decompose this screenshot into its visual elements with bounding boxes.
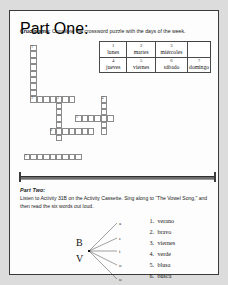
word-list-word: busca <box>158 273 172 279</box>
vowel-label-i: i <box>119 249 120 254</box>
word-list-word: verano <box>158 218 175 224</box>
worksheet-paper: Part One: Crucigrama: Complete the cross… <box>10 11 218 274</box>
list-item: 3.viernes <box>146 238 175 249</box>
list-item: 4.verde <box>146 249 175 260</box>
part-two-label: Part Two: <box>20 187 45 194</box>
word-list-number: 3. <box>146 238 154 249</box>
vowel-label-e: e <box>119 236 121 241</box>
crossword-cell[interactable] <box>75 154 81 160</box>
vowel-label-o: o <box>119 263 122 268</box>
list-item: 6.busca <box>146 271 175 282</box>
crossword-cell[interactable] <box>69 96 75 102</box>
ray-to-e <box>89 238 117 251</box>
word-list-number: 2. <box>146 227 154 238</box>
section-divider <box>19 172 216 182</box>
divider-bar <box>21 176 214 180</box>
word-list-word: blusa <box>158 262 171 268</box>
ray-to-o <box>89 251 117 265</box>
vowel-word-list: 1.verano 2.bravo 3.viernes 4.verde 5.blu <box>146 216 175 283</box>
word-list-number: 4. <box>146 249 154 260</box>
crossword-clue-number: 6 <box>51 129 53 132</box>
ray-to-a <box>89 223 117 251</box>
vowel-label-a: a <box>119 221 121 226</box>
worksheet-content: Part One: Crucigrama: Complete the cross… <box>18 17 211 269</box>
crossword-clue-number: 2 <box>31 97 33 100</box>
crossword-clue-number: 4 <box>102 97 104 100</box>
list-item: 2.bravo <box>146 227 175 238</box>
screenshot-canvas: Part One: Crucigrama: Complete the cross… <box>0 0 228 285</box>
list-item: 1.verano <box>146 216 175 227</box>
word-list-number: 6. <box>146 271 154 282</box>
ray-to-u <box>89 251 117 279</box>
part-two-instruction-line-1: Listen to Activity 31B on the Activity C… <box>20 195 181 201</box>
consonant-v-label: V <box>76 254 83 264</box>
vowel-diagram: B V a e i o u <box>64 213 140 285</box>
vowel-diagram-rays <box>64 213 140 285</box>
list-item: 5.blusa <box>146 260 175 271</box>
word-list-number: 1. <box>146 216 154 227</box>
word-list-word: viernes <box>158 240 176 246</box>
crossword-clue-number: 5 <box>76 116 78 119</box>
consonant-b-label: B <box>76 238 83 248</box>
vowel-label-u: u <box>119 277 122 282</box>
divider-cap-right <box>214 172 216 182</box>
crossword-clue-number: 3 <box>57 97 59 100</box>
word-list-word: bravo <box>158 229 172 235</box>
diagram-hub-dot <box>88 250 90 252</box>
part-two-instruction: Listen to Activity 31B on the Activity C… <box>20 195 212 210</box>
crossword-cell[interactable] <box>94 115 100 121</box>
crossword-clue-number: 7 <box>25 155 27 158</box>
crossword-cell[interactable] <box>56 135 62 141</box>
crossword-cell[interactable] <box>107 115 113 121</box>
worksheet-page: Part One: Crucigrama: Complete the cross… <box>9 10 219 275</box>
crossword-clue-number: 1 <box>31 46 33 49</box>
word-list-number: 5. <box>146 260 154 271</box>
crossword-grid[interactable]: 1234567 <box>18 17 214 167</box>
word-list-items: 1.verano 2.bravo 3.viernes 4.verde 5.blu <box>146 216 175 283</box>
crossword-cell[interactable] <box>88 128 94 134</box>
crossword-cell[interactable] <box>101 128 107 134</box>
word-list-word: verde <box>158 251 172 257</box>
